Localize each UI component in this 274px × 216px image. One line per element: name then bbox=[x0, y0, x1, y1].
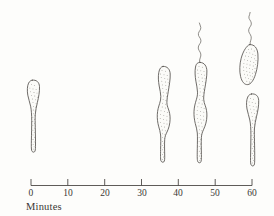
cell-35min bbox=[157, 66, 170, 162]
cell-60min-lower-outline bbox=[247, 94, 259, 166]
axis-tick-label-10: 10 bbox=[63, 189, 73, 199]
cell-45min bbox=[194, 23, 207, 163]
cell-development-figure: 0 10 20 30 40 50 60 Minutes bbox=[0, 0, 274, 216]
axis-tick-label-0: 0 bbox=[29, 189, 34, 199]
axis-tick-label-20: 20 bbox=[100, 189, 110, 199]
cell-0min-outline bbox=[27, 80, 39, 152]
axis-tick-label-40: 40 bbox=[173, 189, 183, 199]
axis-tick-label-50: 50 bbox=[210, 189, 220, 199]
axis-tick-label-30: 30 bbox=[137, 189, 147, 199]
cell-45min-outline bbox=[194, 62, 207, 162]
cell-45min-flagellum bbox=[198, 23, 201, 62]
axis-title-minutes: Minutes bbox=[26, 202, 62, 213]
cell-0min bbox=[27, 80, 39, 152]
figure-drawing-canvas bbox=[0, 0, 274, 216]
cell-60min-lower bbox=[247, 94, 259, 166]
cell-60min-upper bbox=[240, 12, 258, 84]
cell-60min-upper-flagellum bbox=[249, 12, 252, 44]
axis-tick-label-60: 60 bbox=[247, 189, 257, 199]
time-axis bbox=[31, 179, 252, 186]
